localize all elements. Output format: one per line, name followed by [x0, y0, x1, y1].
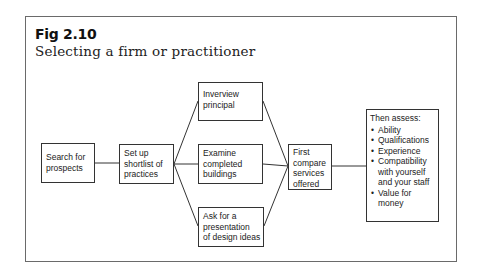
- node-text: offered: [293, 179, 327, 190]
- node-first-compare-services: First compare services offered: [288, 144, 332, 190]
- node-text: prospects: [46, 163, 90, 174]
- node-text: Search for: [46, 152, 90, 163]
- node-text: of design ideas: [203, 232, 259, 243]
- node-ask-for-presentation: Ask for a presentation of design ideas: [198, 207, 264, 247]
- criterion-text: Qualifications: [378, 135, 435, 146]
- node-then-assess: Then assess: Ability Qualifications Expe…: [366, 109, 439, 222]
- node-text: services: [293, 168, 327, 179]
- assess-heading: Then assess:: [370, 113, 435, 124]
- edge-shortlist-interview: [174, 101, 198, 164]
- node-text: presentation: [203, 222, 259, 233]
- edge-presentation-compare: [264, 166, 288, 226]
- criterion-qualifications: Qualifications: [370, 135, 435, 146]
- criterion-text: money: [378, 198, 435, 209]
- criterion-experience: Experience: [370, 146, 435, 157]
- node-examine-buildings: Examine completed buildings: [198, 144, 263, 184]
- node-text: Inverview: [203, 89, 258, 100]
- criterion-compatibility: Compatibility with yourself and your sta…: [370, 156, 435, 188]
- criterion-text: and your staff: [378, 177, 435, 188]
- node-text: Set up: [124, 148, 169, 159]
- node-text: First: [293, 147, 327, 158]
- node-text: principal: [203, 100, 258, 111]
- node-text: shortlist of: [124, 159, 169, 170]
- criterion-value-for-money: Value for money: [370, 188, 435, 209]
- node-text: Examine: [203, 148, 258, 159]
- criterion-text: Value for: [378, 188, 435, 199]
- node-interview-principal: Inverview principal: [198, 82, 263, 121]
- node-text: buildings: [203, 169, 258, 180]
- criterion-ability: Ability: [370, 125, 435, 136]
- edge-examine-compare: [263, 164, 288, 166]
- node-text: completed: [203, 159, 258, 170]
- node-text: Ask for a: [203, 211, 259, 222]
- criterion-text: Compatibility: [378, 156, 435, 167]
- node-set-up-shortlist: Set up shortlist of practices: [119, 144, 174, 184]
- criterion-text: Experience: [378, 146, 435, 157]
- criterion-text: with yourself: [378, 167, 435, 178]
- node-text: compare: [293, 158, 327, 169]
- edge-interview-compare: [263, 101, 288, 166]
- assess-criteria-list: Ability Qualifications Experience Compat…: [370, 125, 435, 209]
- node-search-for-prospects: Search for prospects: [41, 143, 95, 183]
- criterion-text: Ability: [378, 125, 435, 136]
- node-text: practices: [124, 169, 169, 180]
- edge-shortlist-presentation: [174, 164, 198, 226]
